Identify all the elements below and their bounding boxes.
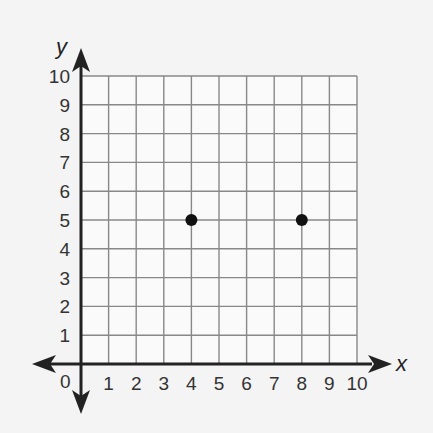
x-tick-label: 5 bbox=[214, 373, 225, 394]
x-tick-label: 9 bbox=[324, 373, 335, 394]
y-tick-labels: 12345678910 bbox=[49, 66, 71, 346]
y-tick-label: 10 bbox=[49, 66, 70, 87]
y-tick-label: 8 bbox=[59, 124, 70, 145]
y-tick-label: 7 bbox=[59, 152, 70, 173]
x-tick-label: 3 bbox=[159, 373, 170, 394]
y-tick-label: 3 bbox=[59, 268, 70, 289]
y-tick-label: 6 bbox=[59, 181, 70, 202]
y-tick-label: 4 bbox=[59, 239, 70, 260]
x-tick-label: 4 bbox=[186, 373, 197, 394]
x-tick-label: 1 bbox=[103, 373, 114, 394]
x-tick-label: 10 bbox=[346, 373, 367, 394]
x-tick-label: 8 bbox=[297, 373, 308, 394]
coordinate-plane: 12345678910 12345678910 0 x y bbox=[0, 0, 433, 433]
grid bbox=[81, 76, 357, 364]
data-point bbox=[185, 214, 197, 226]
x-tick-labels: 12345678910 bbox=[103, 373, 367, 394]
x-axis-label: x bbox=[395, 351, 408, 376]
y-tick-label: 5 bbox=[59, 210, 70, 231]
data-point bbox=[296, 214, 308, 226]
y-axis-label: y bbox=[54, 34, 69, 59]
x-tick-label: 2 bbox=[131, 373, 142, 394]
y-tick-label: 9 bbox=[59, 95, 70, 116]
x-tick-label: 7 bbox=[269, 373, 280, 394]
y-tick-label: 1 bbox=[59, 325, 70, 346]
x-tick-label: 6 bbox=[241, 373, 252, 394]
y-tick-label: 2 bbox=[59, 296, 70, 317]
origin-label: 0 bbox=[60, 371, 71, 392]
